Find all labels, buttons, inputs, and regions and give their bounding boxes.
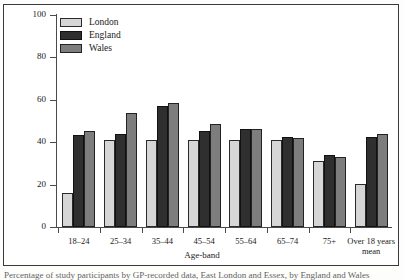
x-axis-label: 45–54	[184, 236, 224, 246]
bar-london[interactable]	[271, 140, 282, 227]
y-axis-tick-label: 100	[18, 10, 46, 19]
legend-item[interactable]: London	[60, 17, 121, 27]
y-axis-tick	[50, 15, 56, 16]
x-axis-label: 35–44	[142, 236, 182, 246]
bar-wales[interactable]	[335, 157, 346, 227]
bar-group	[355, 15, 388, 227]
bar-group	[146, 15, 179, 227]
bar-england[interactable]	[282, 137, 293, 227]
bar-england[interactable]	[157, 106, 168, 227]
bar-group	[229, 15, 262, 227]
x-axis-tick	[267, 227, 268, 233]
legend-swatch-england	[60, 31, 82, 40]
bar-london[interactable]	[313, 161, 324, 227]
x-axis-tick	[225, 227, 226, 233]
bar-wales[interactable]	[377, 134, 388, 227]
y-axis-tick	[50, 227, 56, 228]
legend-label: England	[89, 30, 121, 40]
y-axis-tick-label: 80	[18, 52, 46, 61]
bar-london[interactable]	[146, 140, 157, 227]
x-axis-title: Age-band	[0, 250, 404, 260]
bar-england[interactable]	[240, 129, 251, 227]
bar-wales[interactable]	[251, 129, 262, 227]
x-axis-tick	[100, 227, 101, 233]
bar-london[interactable]	[188, 140, 199, 227]
x-axis-label: Over 18 years mean	[345, 236, 397, 256]
x-axis-tick	[309, 227, 310, 233]
x-axis-label: 75+	[309, 236, 349, 246]
y-axis-tick	[50, 57, 56, 58]
x-axis-line	[56, 227, 392, 228]
bar-wales[interactable]	[168, 103, 179, 227]
bar-london[interactable]	[62, 193, 73, 227]
x-axis-tick	[142, 227, 143, 233]
bar-london[interactable]	[229, 140, 240, 227]
bar-england[interactable]	[366, 137, 377, 227]
y-axis-tick-label: 40	[18, 137, 46, 146]
bar-wales[interactable]	[293, 138, 304, 227]
bar-group	[313, 15, 346, 227]
y-axis-tick-label: 0	[18, 222, 46, 231]
bar-wales[interactable]	[210, 124, 221, 227]
y-axis-tick-label: 20	[18, 180, 46, 189]
legend-label: London	[89, 17, 119, 27]
bar-wales[interactable]	[126, 113, 137, 227]
bar-group	[188, 15, 221, 227]
x-axis-label: 18–24	[59, 236, 99, 246]
legend-swatch-wales	[60, 44, 82, 53]
legend-item[interactable]: England	[60, 30, 121, 40]
x-axis-tick	[183, 227, 184, 233]
y-axis-tick	[50, 185, 56, 186]
x-axis-label: 55–64	[226, 236, 266, 246]
x-axis-label: 25–34	[101, 236, 141, 246]
legend-item[interactable]: Wales	[60, 43, 121, 53]
bar-england[interactable]	[324, 155, 335, 227]
x-axis-label: 65–74	[268, 236, 308, 246]
chart-legend: LondonEnglandWales	[60, 17, 121, 53]
bar-england[interactable]	[199, 131, 210, 227]
y-axis-tick	[50, 142, 56, 143]
bar-london[interactable]	[104, 140, 115, 227]
y-axis-tick	[50, 100, 56, 101]
bar-group	[271, 15, 304, 227]
y-axis-tick-label: 60	[18, 95, 46, 104]
legend-swatch-london	[60, 18, 82, 27]
bar-england[interactable]	[115, 134, 126, 227]
figure-container: 020406080100 Percentage Age-band 18–2425…	[0, 0, 404, 280]
figure-caption: Percentage of study participants by GP-r…	[4, 270, 400, 280]
bar-london[interactable]	[355, 184, 366, 227]
y-axis-line	[56, 14, 57, 228]
x-axis-tick	[58, 227, 59, 233]
legend-label: Wales	[89, 43, 112, 53]
x-axis-tick	[350, 227, 351, 233]
bar-wales[interactable]	[84, 131, 95, 227]
bar-england[interactable]	[73, 135, 84, 227]
